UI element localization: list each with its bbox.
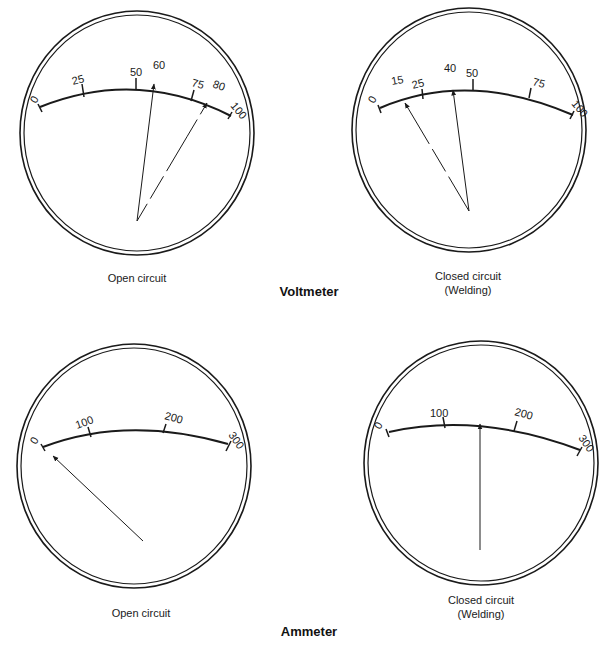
- solid-pointer: [137, 84, 154, 221]
- scale-label: 200: [163, 409, 184, 425]
- meter-bezel-inner: [24, 15, 250, 251]
- meter-caption-line1: Closed circuit: [435, 270, 501, 282]
- scale-label: 75: [190, 76, 205, 91]
- scale-arc: [40, 90, 231, 116]
- scale-label: 200: [513, 405, 534, 421]
- ammeter-open-circuit: 0 100 200 300 Open circuit: [17, 344, 251, 619]
- ammeter-title: Ammeter: [281, 624, 337, 639]
- meter-caption-line1: Closed circuit: [448, 594, 514, 606]
- scale-arc: [380, 91, 573, 115]
- pointer: [53, 456, 143, 541]
- dashed-pointer: [137, 103, 207, 221]
- meter-bezel-inner: [356, 12, 582, 248]
- meter-bezel-inner: [21, 348, 247, 584]
- pointer-label: 15: [390, 73, 404, 87]
- scale-label: 75: [531, 75, 546, 90]
- scale-arc: [43, 430, 228, 447]
- meter-caption-line2: (Welding): [458, 608, 505, 620]
- meter-caption-line2: (Welding): [445, 284, 492, 296]
- pointer-label: 60: [153, 59, 165, 71]
- meter-bezel-outer: [17, 344, 251, 588]
- scale-label: 300: [226, 429, 246, 451]
- scale-label: 0: [27, 435, 40, 446]
- scale-label: 25: [410, 76, 425, 91]
- ammeter-closed-circuit: 0 100 200 300 Closed circuit (Welding): [364, 341, 598, 620]
- meter-diagram: 0 25 50 75 100 60 80 Open circuit 0 25 5…: [0, 0, 613, 649]
- dashed-pointer: [405, 103, 469, 211]
- pointer-label: 40: [444, 62, 456, 74]
- meter-bezel-inner: [368, 345, 594, 581]
- voltmeter-title: Voltmeter: [280, 284, 339, 299]
- scale-label: 100: [430, 407, 448, 419]
- scale-label: 0: [27, 94, 40, 105]
- scale-label: 25: [70, 72, 85, 87]
- meter-caption: Open circuit: [108, 272, 167, 284]
- voltmeter-closed-circuit: 0 25 50 75 100 15 40 Closed circuit (Wel…: [352, 8, 590, 296]
- scale-label: 0: [371, 420, 384, 431]
- scale-label: 50: [466, 67, 478, 79]
- scale-label: 100: [569, 98, 590, 120]
- scale-label: 100: [74, 413, 95, 431]
- scale-label: 0: [365, 94, 378, 105]
- pointer-label: 80: [211, 78, 227, 93]
- solid-pointer: [453, 90, 469, 211]
- scale-arc: [389, 425, 580, 450]
- meter-bezel-outer: [352, 8, 586, 252]
- meter-bezel-outer: [364, 341, 598, 585]
- voltmeter-open-circuit: 0 25 50 75 100 60 80 Open circuit: [20, 11, 254, 284]
- meter-caption: Open circuit: [112, 607, 171, 619]
- scale-label: 50: [130, 66, 142, 78]
